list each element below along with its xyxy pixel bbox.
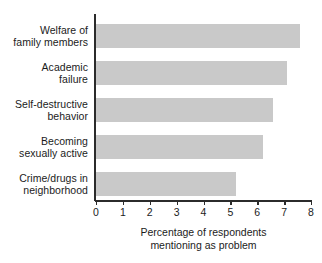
x-tick-mark bbox=[311, 200, 312, 205]
category-label-line: Academic bbox=[0, 61, 88, 73]
x-tick-label: 3 bbox=[168, 206, 186, 218]
category-label-line: Crime/drugs in bbox=[0, 172, 88, 184]
category-label-line: Becoming bbox=[0, 135, 88, 147]
bar bbox=[96, 172, 236, 196]
x-tick-mark bbox=[204, 200, 205, 205]
x-tick-mark bbox=[96, 200, 97, 205]
x-axis-title-line: Percentage of respondents bbox=[96, 226, 311, 239]
x-axis-title-line: mentioning as problem bbox=[96, 239, 311, 252]
x-tick-label: 5 bbox=[221, 206, 239, 218]
plot-area bbox=[96, 15, 311, 200]
bar bbox=[96, 24, 300, 48]
x-tick-mark bbox=[150, 200, 151, 205]
bar-chart-figure: Welfare offamily membersAcademicfailureS… bbox=[0, 0, 322, 263]
x-tick-mark bbox=[257, 200, 258, 205]
bar bbox=[96, 135, 263, 159]
x-tick-label: 1 bbox=[114, 206, 132, 218]
category-label: Welfare offamily members bbox=[0, 24, 88, 48]
category-label-line: family members bbox=[0, 36, 88, 48]
x-tick-label: 6 bbox=[248, 206, 266, 218]
x-tick-mark bbox=[123, 200, 124, 205]
x-tick-label: 8 bbox=[302, 206, 320, 218]
category-label-line: Self-destructive bbox=[0, 98, 88, 110]
x-axis-title: Percentage of respondentsmentioning as p… bbox=[96, 226, 311, 252]
bar bbox=[96, 61, 287, 85]
category-label-line: sexually active bbox=[0, 147, 88, 159]
x-tick-mark bbox=[177, 200, 178, 205]
category-label: Becomingsexually active bbox=[0, 135, 88, 159]
x-tick-mark bbox=[230, 200, 231, 205]
category-label: Self-destructivebehavior bbox=[0, 98, 88, 122]
x-tick-label: 2 bbox=[141, 206, 159, 218]
x-tick-mark bbox=[284, 200, 285, 205]
category-axis-labels: Welfare offamily membersAcademicfailureS… bbox=[0, 15, 92, 200]
x-tick-label: 0 bbox=[87, 206, 105, 218]
x-tick-label: 4 bbox=[195, 206, 213, 218]
category-label-line: failure bbox=[0, 73, 88, 85]
category-label-line: behavior bbox=[0, 110, 88, 122]
y-axis-line bbox=[94, 14, 96, 201]
category-label: Academicfailure bbox=[0, 61, 88, 85]
category-label: Crime/drugs inneighborhood bbox=[0, 172, 88, 196]
bar bbox=[96, 98, 273, 122]
x-tick-label: 7 bbox=[275, 206, 293, 218]
category-label-line: Welfare of bbox=[0, 24, 88, 36]
category-label-line: neighborhood bbox=[0, 184, 88, 196]
